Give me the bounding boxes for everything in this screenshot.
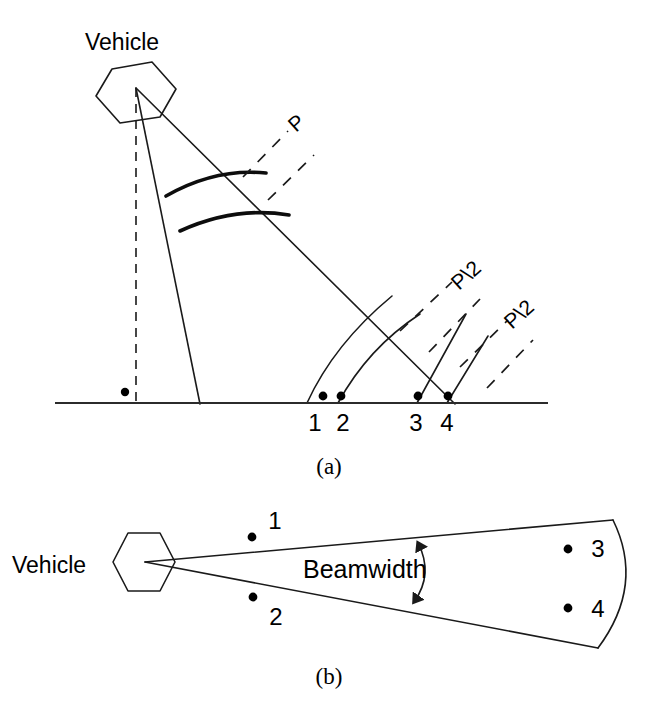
half-pulse-dash-upper-a (400, 282, 452, 331)
panel-a-caption: (a) (316, 454, 342, 479)
pulse-direction-dash-lower (268, 155, 314, 200)
ground-dot-2 (337, 392, 346, 401)
ground-point-label-3: 3 (409, 409, 422, 436)
panel-b-caption: (b) (316, 664, 343, 689)
ground-point-label-2: 2 (336, 409, 349, 436)
vehicle-label-panel-a: Vehicle (85, 29, 159, 55)
scene-point-label-1: 1 (268, 507, 281, 534)
ground-dot-3 (414, 392, 423, 401)
pulse-arc-lower (180, 213, 289, 231)
radar-geometry-figure: P P\2 P\2 1 (0, 0, 659, 707)
scene-dot-4 (564, 604, 573, 613)
half-pulse-label-lower: P\2 (499, 295, 538, 333)
scene-point-label-4: 4 (591, 595, 604, 622)
panel-b-group: 1 2 3 4 Beamwidth Vehicle (b) (12, 507, 626, 689)
scene-dot-2 (249, 593, 258, 602)
footprint-arc-near (307, 296, 392, 403)
half-pulse-dash-upper-b (429, 299, 480, 352)
vehicle-label-panel-b: Vehicle (12, 552, 86, 578)
nadir-ground-dot (121, 388, 129, 396)
scene-dot-3 (564, 545, 573, 554)
ground-dot-4 (444, 392, 453, 401)
figure-root: P P\2 P\2 1 (0, 0, 659, 707)
ground-dot-1 (319, 392, 328, 401)
beam-right-edge (136, 88, 455, 404)
pulse-arc-upper (166, 172, 266, 196)
panel-a-group: P P\2 P\2 1 (55, 29, 548, 479)
scene-point-label-3: 3 (591, 535, 604, 562)
footprint-arc-far (338, 314, 420, 403)
pulse-direction-dash-upper (243, 131, 288, 177)
vehicle-hexagon-panel-b (113, 533, 175, 591)
beam-left-edge (136, 88, 200, 404)
scene-point-label-2: 2 (269, 603, 282, 630)
ground-point-label-4: 4 (440, 409, 453, 436)
beamwidth-label: Beamwidth (303, 555, 427, 583)
ground-point-label-1: 1 (308, 409, 321, 436)
half-pulse-dash-lower-b (487, 340, 533, 388)
half-pulse-label-upper: P\2 (446, 256, 485, 294)
scene-dot-1 (248, 533, 257, 542)
